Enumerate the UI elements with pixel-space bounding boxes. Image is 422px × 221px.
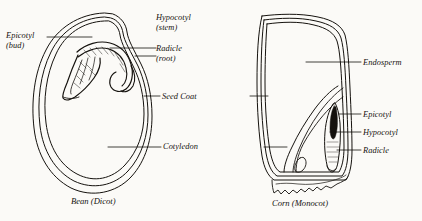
corn-embryo: [284, 86, 343, 172]
label-bean-radicle-subtext: (root): [156, 54, 182, 64]
label-corn-radicle: Radicle: [363, 146, 389, 156]
bean-seed-coat-outline: [33, 13, 152, 193]
caption-corn: Corn (Monocot): [272, 198, 328, 208]
seed-diagram-illustration: [0, 0, 422, 221]
label-corn-hypocotyl: Hypocotyl: [363, 128, 398, 138]
label-bean-epicotyl-subtext: (bud): [6, 41, 34, 51]
label-corn-endosperm: Endosperm: [363, 58, 402, 68]
label-cotyledon: Cotyledon: [163, 142, 198, 152]
label-seed-coat: Seed Coat: [162, 92, 197, 102]
label-corn-epicotyl: Epicotyl: [363, 110, 391, 120]
label-bean-hypocotyl: Hypocotyl (stem): [156, 13, 191, 33]
caption-bean: Bean (Dicot): [71, 196, 116, 206]
label-bean-epicotyl: Epicotyl (bud): [6, 31, 34, 51]
label-bean-hypocotyl-text: Hypocotyl: [156, 13, 191, 22]
diagram-canvas: Epicotyl (bud) Hypocotyl (stem) Radicle …: [0, 0, 422, 221]
bean-embryo: [63, 42, 135, 100]
corn-tip-cap: [272, 175, 348, 194]
label-bean-radicle: Radicle (root): [156, 44, 182, 64]
label-bean-epicotyl-text: Epicotyl: [6, 31, 34, 40]
label-bean-hypocotyl-subtext: (stem): [156, 23, 191, 33]
corn-seed-coat-outline: [257, 14, 352, 180]
label-bean-radicle-text: Radicle: [156, 44, 182, 53]
